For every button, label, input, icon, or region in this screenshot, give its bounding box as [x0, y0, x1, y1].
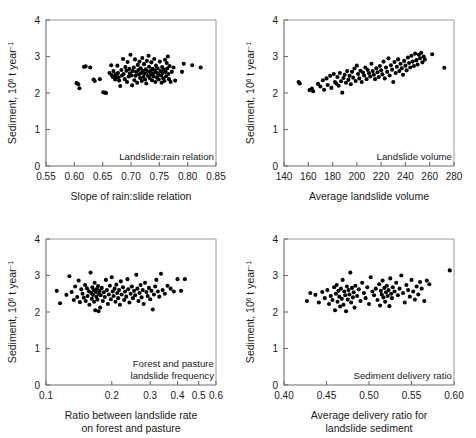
data-point — [340, 91, 344, 95]
data-point — [109, 63, 113, 67]
plot-axes — [284, 239, 454, 385]
data-point — [321, 78, 325, 82]
data-point — [122, 72, 126, 76]
data-point — [337, 84, 341, 88]
data-point — [149, 60, 153, 64]
data-point — [75, 295, 79, 299]
data-point — [343, 293, 347, 297]
x-tick-label: 0.70 — [121, 171, 141, 182]
data-point — [328, 74, 332, 78]
data-point — [147, 54, 151, 58]
y-tick-label: 0 — [34, 161, 40, 172]
data-point — [152, 292, 156, 296]
data-point — [120, 292, 124, 296]
data-point — [352, 290, 356, 294]
data-point — [172, 290, 176, 294]
data-point — [92, 300, 96, 304]
data-point — [129, 292, 133, 296]
y-tick-label: 0 — [272, 380, 278, 391]
data-point — [394, 71, 398, 75]
panel-landslide-volume: 01234140160180200220240260280Landslide v… — [238, 0, 476, 219]
data-point — [116, 71, 120, 75]
data-point — [330, 298, 334, 302]
data-point — [407, 61, 411, 65]
x-tick-label: 0.1 — [39, 390, 53, 401]
data-point — [374, 287, 378, 291]
data-point — [133, 293, 137, 297]
data-point — [130, 73, 134, 77]
data-point — [404, 283, 408, 287]
x-tick-label: 0.45 — [317, 390, 337, 401]
data-point — [406, 288, 410, 292]
data-point — [112, 294, 116, 298]
x-tick-label: 0.3 — [143, 390, 157, 401]
data-point — [84, 299, 88, 303]
x-tick-label: 0.75 — [150, 171, 170, 182]
data-point — [355, 294, 359, 298]
data-point — [382, 60, 386, 64]
data-point — [408, 65, 412, 69]
data-point — [107, 292, 111, 296]
data-point — [81, 292, 85, 296]
data-point — [106, 302, 110, 306]
data-point — [183, 277, 187, 281]
y-axis-ticks: 01234 — [34, 234, 50, 391]
data-point — [341, 303, 345, 307]
data-point — [345, 284, 349, 288]
data-point — [151, 307, 155, 311]
y-tick-label: 2 — [34, 88, 40, 99]
x-axis-ticks: 140160180200220240260280 — [276, 162, 463, 182]
data-point — [342, 290, 346, 294]
x-tick-label: 0.55 — [402, 390, 422, 401]
data-point — [394, 281, 398, 285]
data-point — [339, 79, 343, 83]
data-point — [385, 70, 389, 74]
data-point — [127, 67, 131, 71]
plot-axes — [284, 20, 454, 166]
data-point — [389, 63, 393, 67]
data-point — [336, 300, 340, 304]
data-point — [86, 294, 90, 298]
y-axis-ticks: 01234 — [272, 234, 288, 391]
data-point — [97, 309, 101, 313]
data-point — [346, 78, 350, 82]
data-point — [374, 66, 378, 70]
data-point — [351, 76, 355, 80]
plot-axes — [46, 20, 216, 166]
y-tick-label: 2 — [272, 88, 278, 99]
data-point — [346, 298, 350, 302]
y-tick-label: 1 — [34, 343, 40, 354]
data-point — [89, 271, 93, 275]
data-point — [340, 297, 344, 301]
data-point — [390, 68, 394, 72]
data-point — [388, 73, 392, 77]
data-point — [87, 303, 91, 307]
data-point — [134, 273, 138, 277]
data-point — [101, 299, 105, 303]
x-tick-label: 0.60 — [65, 171, 85, 182]
data-point — [362, 73, 366, 77]
data-point — [144, 81, 148, 85]
panel-landslide-rain-relation: 012340.550.600.650.700.750.800.85Landsli… — [0, 0, 238, 219]
annotation-line: Landslide:rain relation — [119, 151, 214, 162]
data-point — [104, 91, 108, 95]
x-axis-title: Average delivery ratio forlandslide sedi… — [311, 409, 428, 434]
data-point — [113, 300, 117, 304]
y-tick-label: 3 — [34, 51, 40, 62]
data-point — [119, 68, 123, 72]
data-point — [372, 73, 376, 77]
y-tick-label: 2 — [34, 307, 40, 318]
data-point — [322, 88, 326, 92]
panel-sediment-delivery-ratio: 012340.400.450.500.550.60Sediment delive… — [238, 219, 476, 438]
data-point — [55, 289, 59, 293]
data-point — [423, 57, 427, 61]
data-point — [343, 73, 347, 77]
data-point — [355, 64, 359, 68]
data-point — [173, 79, 177, 83]
data-point — [317, 300, 321, 304]
data-point — [137, 291, 141, 295]
data-point — [398, 287, 402, 291]
data-point — [142, 302, 146, 306]
y-axis-title: Sediment, 106 t year−1 — [244, 42, 256, 145]
x-tick-label: 180 — [324, 171, 341, 182]
